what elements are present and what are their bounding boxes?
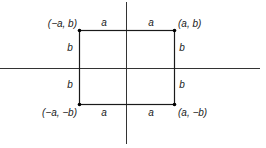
segment-label-right-top-b: b bbox=[179, 42, 185, 53]
corner-label-top-right: (a, b) bbox=[178, 18, 201, 29]
corner-point-bottom-left bbox=[78, 103, 82, 107]
corner-label-top-left: (−a, b) bbox=[48, 18, 77, 29]
segment-label-left-bottom-b: b bbox=[67, 79, 73, 90]
corner-label-bottom-left: (−a, −b) bbox=[42, 107, 77, 118]
corner-point-bottom-right bbox=[173, 103, 177, 107]
coordinate-diagram: (−a, b) (a, b) (−a, −b) (a, −b) a a a a … bbox=[0, 0, 266, 148]
segment-label-bottom-right-a: a bbox=[148, 107, 154, 118]
corner-label-bottom-right: (a, −b) bbox=[178, 107, 207, 118]
segment-label-right-bottom-b: b bbox=[179, 79, 185, 90]
segment-label-bottom-left-a: a bbox=[101, 107, 107, 118]
segment-label-top-right-a: a bbox=[148, 17, 154, 28]
corner-point-top-left bbox=[78, 29, 82, 33]
segment-label-top-left-a: a bbox=[101, 17, 107, 28]
corner-point-top-right bbox=[173, 29, 177, 33]
segment-label-left-top-b: b bbox=[67, 42, 73, 53]
